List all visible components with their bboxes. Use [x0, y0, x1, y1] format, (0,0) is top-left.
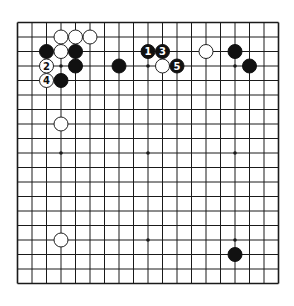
move-number-label: 2	[43, 61, 50, 72]
white-stone-icon	[54, 117, 68, 131]
black-stone-icon	[54, 74, 68, 88]
black-stone-move-3: 3	[156, 45, 170, 59]
white-stone	[156, 59, 170, 73]
black-stone	[112, 59, 126, 73]
black-stone	[228, 45, 242, 59]
black-stone	[54, 74, 68, 88]
star-point	[59, 64, 63, 68]
white-stone-move-2: 2	[40, 59, 54, 73]
white-stone-icon	[83, 30, 97, 44]
white-stone	[54, 233, 68, 247]
white-stone	[54, 45, 68, 59]
white-stone	[199, 45, 213, 59]
black-stone	[243, 59, 257, 73]
move-number-label: 5	[174, 61, 181, 72]
move-number-label: 1	[145, 46, 152, 57]
black-stone-icon	[228, 248, 242, 262]
white-stone-icon	[54, 45, 68, 59]
black-stone-move-5: 5	[170, 59, 184, 73]
white-stone-move-4: 4	[40, 74, 54, 88]
white-stone-icon	[156, 59, 170, 73]
move-number-label: 3	[159, 46, 166, 57]
star-point	[146, 64, 150, 68]
white-stone	[83, 30, 97, 44]
black-stone-icon	[112, 59, 126, 73]
black-stone	[69, 45, 83, 59]
black-stone	[40, 45, 54, 59]
star-point	[233, 64, 237, 68]
black-stone-icon	[40, 45, 54, 59]
star-point	[59, 151, 63, 155]
black-stone-icon	[69, 45, 83, 59]
star-point	[233, 238, 237, 242]
star-point	[146, 151, 150, 155]
white-stone	[54, 30, 68, 44]
black-stone	[69, 59, 83, 73]
white-stone-icon	[54, 233, 68, 247]
black-stone-icon	[69, 59, 83, 73]
white-stone-icon	[69, 30, 83, 44]
move-number-label: 4	[43, 75, 50, 86]
black-stone-icon	[228, 45, 242, 59]
black-stone-move-1: 1	[141, 45, 155, 59]
white-stone-icon	[199, 45, 213, 59]
black-stone	[228, 248, 242, 262]
go-board-diagram: 24135	[0, 0, 294, 306]
star-point	[146, 238, 150, 242]
go-board: 24135	[0, 0, 294, 306]
white-stone-icon	[54, 30, 68, 44]
black-stone-icon	[243, 59, 257, 73]
white-stone	[69, 30, 83, 44]
white-stone	[54, 117, 68, 131]
star-point	[233, 151, 237, 155]
